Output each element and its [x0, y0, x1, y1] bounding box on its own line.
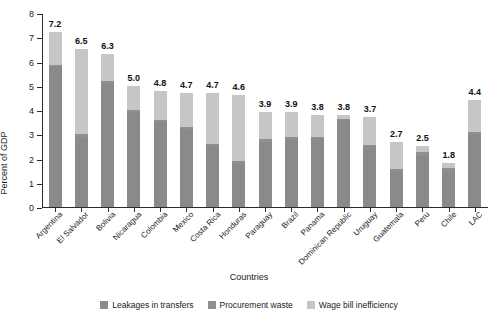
- x-axis-tick-label: Bolivia: [94, 210, 117, 233]
- bars-layer: 7.26.56.35.04.84.74.74.63.93.93.83.83.72…: [42, 14, 488, 208]
- bar-segment: [232, 163, 245, 207]
- bar-segment: [285, 112, 298, 136]
- y-axis-tick-label: 8: [29, 9, 34, 19]
- bar-group[interactable]: 3.8: [311, 115, 324, 207]
- bar-segment: [363, 146, 376, 207]
- bar-value-label: 2.5: [416, 133, 429, 143]
- bar-segment: [285, 139, 298, 207]
- bar-value-label: 4.7: [206, 80, 219, 90]
- bar-value-label: 2.7: [390, 129, 403, 139]
- legend-item[interactable]: Procurement waste: [208, 300, 293, 310]
- bar-group[interactable]: 2.5: [416, 146, 429, 207]
- x-axis-tick-labels: ArgentinaEl SalvadorBoliviaNicaraguaColo…: [42, 210, 488, 272]
- bar-value-label: 3.9: [259, 99, 272, 109]
- bar-segment: [49, 66, 62, 207]
- bar-group[interactable]: 4.8: [154, 91, 167, 207]
- bar-value-label: 3.8: [337, 102, 350, 112]
- y-axis-title: Percent of GDP: [0, 131, 9, 194]
- bar-group[interactable]: 5.0: [127, 86, 140, 207]
- legend-swatch-icon: [208, 301, 216, 309]
- bar-segment: [206, 146, 219, 207]
- bar-value-label: 3.7: [364, 104, 377, 114]
- y-axis-tick-label: 5: [29, 82, 34, 92]
- y-axis-tick: [37, 208, 42, 209]
- bar-segment: [337, 120, 350, 207]
- bar-group[interactable]: 4.6: [232, 95, 245, 207]
- y-axis-tick-label: 4: [29, 106, 34, 116]
- chart-legend: Leakages in transfersProcurement wasteWa…: [0, 300, 498, 310]
- bar-group[interactable]: 1.8: [442, 163, 455, 207]
- bar-segment: [154, 91, 167, 120]
- y-axis-tick-label: 0: [29, 203, 34, 213]
- y-axis-tick-label: 3: [29, 130, 34, 140]
- bar-value-label: 6.5: [75, 36, 88, 46]
- legend-label: Wage bill inefficiency: [319, 300, 398, 310]
- bar-group[interactable]: 2.7: [390, 142, 403, 207]
- y-axis-tick-label: 6: [29, 58, 34, 68]
- bar-value-label: 4.4: [469, 87, 482, 97]
- bar-chart: 012345678 7.26.56.35.04.84.74.74.63.93.9…: [0, 0, 498, 326]
- bar-segment: [232, 95, 245, 160]
- bar-segment: [468, 134, 481, 207]
- bar-segment: [259, 112, 272, 139]
- x-axis-tick-label: Dominican Republic: [296, 210, 353, 267]
- y-axis-tick-label: 1: [29, 179, 34, 189]
- bar-value-label: 5.0: [128, 73, 141, 83]
- bar-value-label: 3.9: [285, 99, 298, 109]
- x-axis-title: Countries: [0, 272, 498, 282]
- bar-group[interactable]: 4.7: [206, 93, 219, 207]
- bar-value-label: 4.8: [154, 78, 167, 88]
- x-axis-tick-label: Colombia: [139, 210, 169, 240]
- bar-segment: [416, 156, 429, 207]
- x-axis-tick-label: LAC: [467, 210, 484, 227]
- bar-segment: [101, 83, 114, 207]
- y-axis-tick-label: 7: [29, 33, 34, 43]
- x-axis-tick-label: Brazil: [280, 210, 301, 231]
- legend-swatch-icon: [100, 301, 108, 309]
- bar-segment: [154, 122, 167, 207]
- bar-value-label: 4.6: [232, 82, 245, 92]
- bar-group[interactable]: 3.8: [337, 115, 350, 207]
- bar-segment: [468, 100, 481, 132]
- bar-segment: [180, 93, 193, 127]
- bar-group[interactable]: 6.5: [75, 49, 88, 207]
- bar-segment: [180, 129, 193, 207]
- bar-segment: [311, 138, 324, 207]
- plot-area: 012345678 7.26.56.35.04.84.74.74.63.93.9…: [42, 14, 488, 208]
- bar-segment: [206, 93, 219, 144]
- bar-value-label: 7.2: [49, 19, 62, 29]
- x-axis-tick-label: Honduras: [217, 210, 248, 241]
- legend-item[interactable]: Wage bill inefficiency: [307, 300, 398, 310]
- bar-segment: [101, 54, 114, 81]
- bar-segment: [49, 32, 62, 65]
- x-axis-tick-label: Peru: [413, 210, 431, 228]
- legend-label: Procurement waste: [220, 300, 293, 310]
- y-axis-tick-label: 2: [29, 155, 34, 165]
- bar-value-label: 4.7: [180, 80, 193, 90]
- legend-item[interactable]: Leakages in transfers: [100, 300, 193, 310]
- bar-group[interactable]: 3.9: [259, 112, 272, 207]
- legend-label: Leakages in transfers: [112, 300, 193, 310]
- x-axis-tick-label: Mexico: [171, 210, 195, 234]
- bar-segment: [75, 49, 88, 134]
- bar-segment: [363, 117, 376, 145]
- bar-group[interactable]: 7.2: [49, 32, 62, 207]
- bar-group[interactable]: 3.9: [285, 112, 298, 207]
- bar-segment: [127, 112, 140, 207]
- legend-swatch-icon: [307, 301, 315, 309]
- bar-value-label: 6.3: [101, 41, 114, 51]
- bar-group[interactable]: 3.7: [363, 117, 376, 207]
- bar-segment: [442, 171, 455, 207]
- bar-segment: [390, 171, 403, 207]
- bar-segment: [259, 142, 272, 207]
- bar-segment: [75, 137, 88, 207]
- bar-value-label: 3.8: [311, 102, 324, 112]
- bar-value-label: 1.8: [442, 150, 455, 160]
- bar-group[interactable]: 6.3: [101, 54, 114, 207]
- x-axis-tick-label: Paraguay: [244, 210, 275, 241]
- bar-segment: [390, 142, 403, 170]
- bar-group[interactable]: 4.7: [180, 93, 193, 207]
- x-axis-tick-label: Chile: [439, 210, 458, 229]
- bar-group[interactable]: 4.4: [468, 100, 481, 207]
- bar-segment: [127, 86, 140, 110]
